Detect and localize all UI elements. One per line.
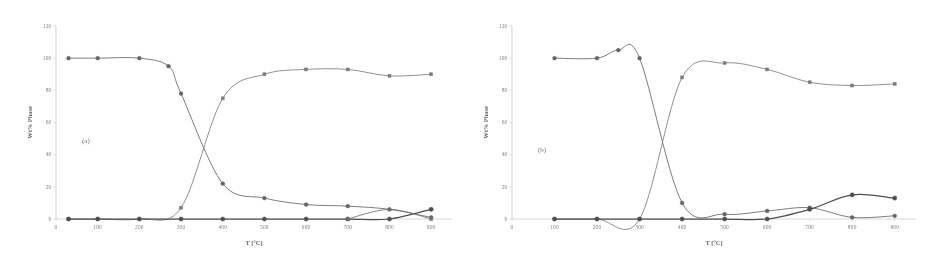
data-point-marker bbox=[766, 68, 769, 71]
data-point-marker bbox=[893, 82, 896, 85]
x-tick-label: 100 bbox=[93, 224, 102, 230]
y-tick-label: 20 bbox=[46, 184, 52, 190]
data-point-marker bbox=[180, 206, 183, 209]
series-phase-1-descending bbox=[553, 44, 897, 219]
data-point-marker bbox=[263, 196, 267, 200]
y-axis-title: Wt% Phase bbox=[482, 106, 489, 139]
data-point-marker bbox=[681, 76, 684, 79]
data-point-marker bbox=[263, 73, 266, 76]
data-point-marker bbox=[553, 56, 557, 60]
y-tick-label: 80 bbox=[46, 87, 52, 93]
x-tick-label: 700 bbox=[343, 224, 352, 230]
y-tick-label: 120 bbox=[499, 23, 508, 29]
data-point-marker bbox=[637, 217, 641, 221]
y-tick-label: 0 bbox=[505, 216, 508, 222]
data-point-marker bbox=[96, 217, 100, 221]
data-point-marker bbox=[808, 207, 812, 211]
data-point-marker bbox=[388, 74, 391, 77]
y-tick-label: 80 bbox=[502, 87, 508, 93]
x-tick-label: 600 bbox=[763, 224, 772, 230]
y-tick-label: 40 bbox=[46, 151, 52, 157]
x-tick-label: 700 bbox=[805, 224, 814, 230]
chart-panel-a: 0204060801001200100200300400500600700800… bbox=[0, 0, 464, 266]
data-point-marker bbox=[765, 217, 769, 221]
chart-panel-b: 0204060801001200100200300400500600700800… bbox=[464, 0, 928, 266]
data-point-marker bbox=[552, 217, 556, 221]
data-point-marker bbox=[66, 217, 70, 221]
x-tick-label: 100 bbox=[550, 224, 559, 230]
data-point-marker bbox=[387, 217, 391, 221]
y-tick-label: 60 bbox=[46, 119, 52, 125]
series-phase-1-descending bbox=[67, 56, 433, 219]
panel-label: (b) bbox=[538, 146, 547, 154]
data-point-marker bbox=[137, 56, 141, 60]
data-point-marker bbox=[179, 217, 183, 221]
data-point-marker bbox=[221, 182, 225, 186]
y-tick-label: 40 bbox=[502, 151, 508, 157]
data-point-marker bbox=[723, 61, 726, 64]
data-point-marker bbox=[595, 56, 599, 60]
y-tick-label: 100 bbox=[499, 55, 508, 61]
data-point-marker bbox=[723, 212, 727, 216]
x-tick-label: 800 bbox=[848, 224, 857, 230]
x-tick-label: 400 bbox=[218, 224, 227, 230]
x-tick-label: 300 bbox=[635, 224, 644, 230]
x-tick-label: 200 bbox=[593, 224, 602, 230]
data-point-marker bbox=[304, 217, 308, 221]
data-point-marker bbox=[851, 84, 854, 87]
data-point-marker bbox=[723, 217, 727, 221]
data-point-marker bbox=[680, 201, 684, 205]
data-point-marker bbox=[638, 56, 642, 60]
data-point-marker bbox=[346, 204, 350, 208]
data-point-marker bbox=[305, 68, 308, 71]
chart-a-svg: 0204060801001200100200300400500600700800… bbox=[0, 0, 464, 266]
data-point-marker bbox=[850, 215, 854, 219]
data-point-marker bbox=[850, 193, 854, 197]
data-point-marker bbox=[430, 73, 433, 76]
x-tick-label: 400 bbox=[678, 224, 687, 230]
data-point-marker bbox=[221, 217, 225, 221]
data-point-marker bbox=[96, 56, 100, 60]
x-axis-title: T [°C] bbox=[705, 239, 722, 246]
y-tick-label: 0 bbox=[49, 216, 52, 222]
x-tick-label: 900 bbox=[890, 224, 899, 230]
axes-group: 0204060801001200100200300400500600700800… bbox=[499, 23, 916, 230]
chart-b-svg: 0204060801001200100200300400500600700800… bbox=[464, 0, 928, 266]
series-phase-3-baseline bbox=[66, 207, 433, 221]
x-tick-label: 500 bbox=[260, 224, 269, 230]
data-point-marker bbox=[893, 214, 897, 218]
data-point-marker bbox=[304, 203, 308, 207]
x-tick-label: 800 bbox=[385, 224, 394, 230]
data-point-marker bbox=[595, 217, 599, 221]
data-point-marker bbox=[616, 48, 620, 52]
data-point-marker bbox=[893, 196, 897, 200]
x-tick-label: 200 bbox=[135, 224, 144, 230]
y-tick-label: 120 bbox=[43, 23, 52, 29]
data-point-marker bbox=[346, 68, 349, 71]
series-line bbox=[555, 44, 895, 218]
series-phase-2-ascending bbox=[553, 61, 896, 230]
x-tick-label: 0 bbox=[511, 224, 514, 230]
y-tick-label: 20 bbox=[502, 184, 508, 190]
x-tick-label: 600 bbox=[302, 224, 311, 230]
y-axis-title: Wt% Phase bbox=[26, 106, 33, 139]
data-point-marker bbox=[429, 207, 433, 211]
x-tick-label: 900 bbox=[427, 224, 436, 230]
series-line bbox=[555, 61, 895, 230]
series-phase-3-baseline bbox=[552, 193, 896, 221]
panel-label: (a) bbox=[82, 137, 90, 145]
series-line bbox=[69, 69, 432, 220]
data-point-marker bbox=[167, 64, 171, 68]
data-point-marker bbox=[137, 217, 141, 221]
y-tick-label: 60 bbox=[502, 119, 508, 125]
axes-group: 0204060801001200100200300400500600700800… bbox=[43, 23, 452, 230]
data-point-marker bbox=[179, 92, 183, 96]
series-line bbox=[69, 58, 432, 218]
data-point-marker bbox=[221, 97, 224, 100]
data-point-marker bbox=[808, 81, 811, 84]
x-tick-label: 500 bbox=[720, 224, 729, 230]
data-point-marker bbox=[765, 209, 769, 213]
data-point-marker bbox=[67, 56, 71, 60]
x-axis-title: T [°C] bbox=[245, 239, 262, 246]
data-point-marker bbox=[262, 217, 266, 221]
